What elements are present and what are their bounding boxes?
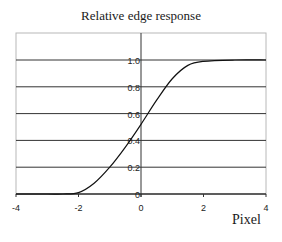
y-tick-label: 0 <box>135 190 140 200</box>
y-tick-label: 1.0 <box>127 56 140 66</box>
x-tick-label: 0 <box>138 203 143 213</box>
y-tick-label: 0.2 <box>127 163 140 173</box>
x-tick-label: 4 <box>263 203 268 213</box>
x-axis-label: Pixel <box>232 212 261 228</box>
x-tick-label: 2 <box>201 203 206 213</box>
y-tick-label: 0.6 <box>127 110 140 120</box>
plot-area: 00.20.40.60.81.0-4-2024 <box>0 0 282 242</box>
x-tick-label: -2 <box>74 203 82 213</box>
y-tick-label: 0.8 <box>127 83 140 93</box>
x-tick-label: -4 <box>12 203 20 213</box>
